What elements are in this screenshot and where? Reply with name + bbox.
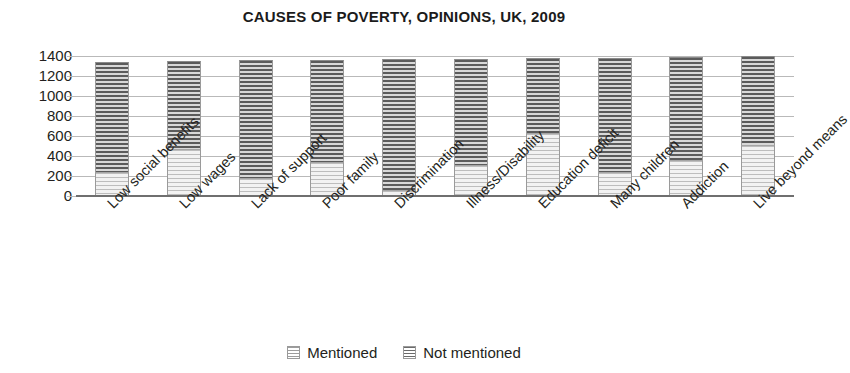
y-tick-mark-200 [67,176,76,177]
bar-segment-not-mentioned[interactable] [95,62,129,172]
bar-segment-not-mentioned[interactable] [239,60,273,178]
y-tick-mark-0 [67,196,76,197]
y-tick-mark-800 [67,116,76,117]
bar-group[interactable] [741,56,775,196]
bar-group[interactable] [598,58,632,196]
bar-group[interactable] [454,59,488,196]
legend-item-mentioned[interactable]: Mentioned [287,344,377,361]
bar-group[interactable] [526,58,560,196]
y-tick-mark-1200 [67,76,76,77]
y-tick-mark-1400 [67,56,76,57]
bar-segment-not-mentioned[interactable] [741,56,775,145]
y-tick-mark-400 [67,156,76,157]
x-axis-category-labels: Low social benefitsLow wagesLack of supp… [0,200,808,318]
legend-label: Mentioned [307,344,377,361]
bar-segment-not-mentioned[interactable] [526,58,560,133]
bar-group[interactable] [669,57,703,196]
dark-striped-swatch [403,346,416,359]
bar-group[interactable] [382,59,416,196]
y-tick-mark-600 [67,136,76,137]
bar-group[interactable] [310,60,344,196]
bar-group[interactable] [95,62,129,196]
legend-label: Not mentioned [423,344,521,361]
bar-group[interactable] [239,60,273,196]
chart-title: CAUSES OF POVERTY, OPINIONS, UK, 2009 [0,8,808,25]
bar-segment-not-mentioned[interactable] [382,59,416,190]
chart-legend: MentionedNot mentioned [0,344,808,361]
light-striped-swatch [287,346,300,359]
y-tick-mark-1000 [67,96,76,97]
legend-item-not-mentioned[interactable]: Not mentioned [403,344,521,361]
